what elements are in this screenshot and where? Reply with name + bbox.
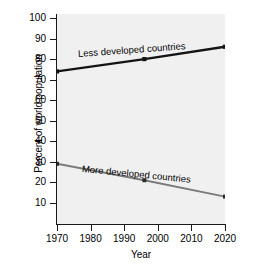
y-tick-mark (50, 162, 56, 163)
data-marker (223, 45, 225, 49)
x-tick-mark (158, 225, 159, 231)
y-tick-label: 70 (12, 75, 46, 85)
x-tick-mark (225, 225, 226, 231)
x-tick-mark (91, 225, 92, 231)
data-marker (142, 57, 146, 61)
y-tick-mark (50, 203, 56, 204)
y-tick-mark (50, 80, 56, 81)
y-tick-mark (50, 59, 56, 60)
x-axis-spine (56, 224, 226, 225)
y-tick-mark (50, 121, 56, 122)
y-tick-mark (50, 18, 56, 19)
y-tick-mark (50, 100, 56, 101)
y-tick-label: 100 (12, 13, 46, 23)
y-tick-label: 50 (12, 116, 46, 126)
y-tick-mark (50, 39, 56, 40)
y-tick-mark (50, 141, 56, 142)
x-tick-mark (124, 225, 125, 231)
y-tick-label: 90 (12, 34, 46, 44)
y-tick-label: 80 (12, 54, 46, 64)
data-marker (223, 195, 225, 199)
x-axis-title: Year (57, 249, 225, 260)
x-tick-mark (191, 225, 192, 231)
y-tick-mark (50, 182, 56, 183)
x-tick-label: 2020 (205, 233, 245, 244)
y-tick-label: 20 (12, 177, 46, 187)
line-chart-figure: Percent of world population Less develop… (0, 0, 255, 269)
y-axis-spine (56, 14, 57, 225)
y-tick-label: 60 (12, 95, 46, 105)
y-tick-label: 10 (12, 198, 46, 208)
data-marker (57, 162, 59, 166)
y-tick-label: 40 (12, 136, 46, 146)
y-tick-label: 30 (12, 157, 46, 167)
data-marker (57, 69, 59, 73)
x-tick-mark (57, 225, 58, 231)
